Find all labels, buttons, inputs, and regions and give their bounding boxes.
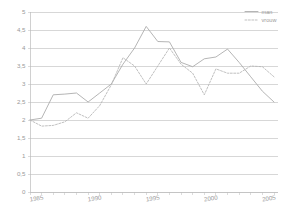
line-chart: 00,511,522,533,544,55 198519901995200020… [0, 0, 287, 216]
y-axis-tick-label: 4 [22, 44, 26, 51]
series-line-vrouw [30, 48, 274, 126]
x-axis-tick-label: 2000 [203, 194, 218, 203]
x-axis-tick-label: 1990 [87, 194, 102, 203]
y-axis-tick-label: 3 [22, 80, 26, 87]
y-axis-tick-label: 3,5 [17, 62, 26, 69]
chart-legend: manvrouw [245, 9, 277, 24]
x-axis-tick-label: 1985 [29, 194, 44, 203]
y-axis-tick-label: 2,5 [17, 98, 26, 105]
x-axis-tick-label: 1995 [145, 194, 160, 203]
y-axis-tick-label: 1 [22, 152, 26, 159]
chart-canvas: 00,511,522,533,544,55 198519901995200020… [0, 0, 287, 216]
gridlines [30, 12, 278, 192]
y-axis-tick-label: 1,5 [17, 134, 26, 141]
x-axis-tick-label: 2005 [262, 194, 277, 203]
x-axis-labels: 19851990199520002005 [29, 194, 277, 203]
y-axis-labels: 00,511,522,533,544,55 [17, 8, 30, 195]
plot-series [30, 26, 274, 126]
legend-label-vrouw: vrouw [262, 17, 278, 23]
y-axis-tick-label: 5 [22, 8, 26, 15]
y-axis-tick-label: 2 [22, 116, 26, 123]
y-axis-tick-label: 0 [22, 188, 26, 195]
y-axis-tick-label: 4,5 [17, 26, 26, 33]
legend-label-man: man [262, 9, 273, 15]
y-axis-tick-label: 0,5 [17, 170, 26, 177]
